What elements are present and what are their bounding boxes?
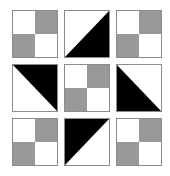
diagonal-triangle-shape [13,65,57,111]
pattern-tile-grid [0,0,170,176]
quadrant-top-right [139,119,161,142]
quadrant-top-left [65,65,87,88]
quadrant-bottom-right [139,34,161,57]
quadrant-top-left [117,11,139,34]
quadrant-bottom-right [35,142,57,165]
quadrant-top-right [87,65,109,88]
quadrant-top-right [35,11,57,34]
quadrant-top-left [117,119,139,142]
quadrant-bottom-right [139,142,161,165]
quadrant-bottom-left [117,34,139,57]
checkerboard-tile [116,10,162,58]
checkerboard-tile [12,10,58,58]
quadrant-top-right [35,119,57,142]
quadrant-top-right [139,11,161,34]
triangle-tile [116,64,162,112]
quadrant-bottom-left [117,142,139,165]
quadrant-bottom-left [65,88,87,111]
checkerboard-tile [116,118,162,166]
quadrant-bottom-right [87,88,109,111]
diagonal-triangle-shape [65,11,109,57]
diagonal-triangle-shape [117,65,161,111]
triangle-tile [64,118,110,166]
triangle-tile [12,64,58,112]
checkerboard-tile [12,118,58,166]
diagonal-triangle-shape [65,119,109,165]
quadrant-bottom-left [13,142,35,165]
quadrant-bottom-right [35,34,57,57]
quadrant-top-left [13,11,35,34]
triangle-tile [64,10,110,58]
quadrant-top-left [13,119,35,142]
checkerboard-tile [64,64,110,112]
quadrant-bottom-left [13,34,35,57]
